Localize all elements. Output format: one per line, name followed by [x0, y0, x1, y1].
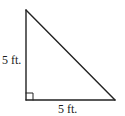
bottom-side-length-label: 5 ft.: [58, 103, 77, 115]
triangle-hypotenuse: [26, 10, 115, 100]
right-angle-marker-icon: [26, 93, 33, 100]
left-side-length-label: 5 ft.: [2, 54, 21, 66]
